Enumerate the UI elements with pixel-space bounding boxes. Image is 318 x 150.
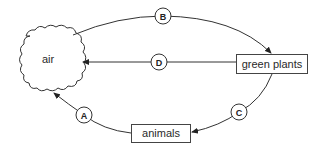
marker-d: D: [151, 54, 167, 70]
marker-c-label: C: [236, 108, 243, 118]
marker-b-label: B: [160, 12, 167, 22]
marker-b: B: [155, 8, 171, 24]
air-node: air: [20, 25, 86, 91]
marker-a: A: [76, 107, 92, 123]
arrow-c: [192, 74, 272, 132]
marker-d-label: D: [156, 58, 163, 68]
marker-c: C: [231, 104, 247, 120]
arrow-a: [54, 93, 131, 133]
arrow-b: [73, 16, 271, 53]
air-label: air: [42, 53, 55, 65]
carbon-cycle-diagram: air green plants animals B D C A: [0, 0, 318, 150]
animals-node: animals: [132, 125, 191, 143]
green-plants-node: green plants: [237, 55, 308, 74]
green-plants-label: green plants: [242, 58, 303, 70]
marker-a-label: A: [81, 111, 88, 121]
animals-label: animals: [142, 127, 180, 139]
